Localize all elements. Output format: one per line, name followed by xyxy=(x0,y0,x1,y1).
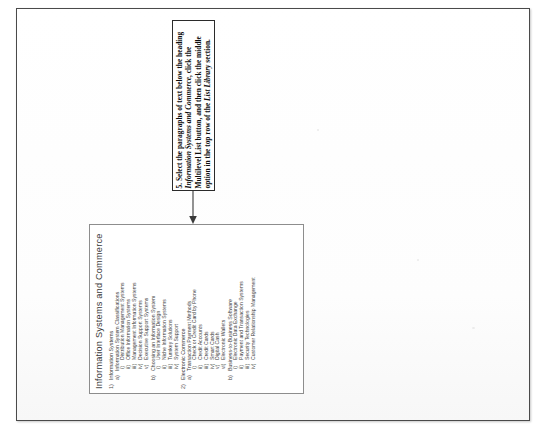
callout-emphasis-1: Information Systems and Commerce xyxy=(183,77,192,188)
scan-speck xyxy=(417,259,419,261)
outline-item-label: Electronic Wallets xyxy=(220,320,226,360)
outline-item-level-3: iv)System Support xyxy=(173,227,179,389)
outline-item-label: Information Systems xyxy=(107,331,113,380)
outline-item-level-2: b)Choosing an Information System xyxy=(149,227,155,389)
scan-speck xyxy=(317,129,319,131)
outline-item-label: Electronic Commerce xyxy=(179,328,185,380)
outline-item-marker: iv) xyxy=(173,360,179,369)
callout-line-3: Multilevel List button, and then click t… xyxy=(193,36,202,188)
outline-item-level-3: iv)Customer Relationship Management xyxy=(250,227,256,389)
callout-down-arrow-icon xyxy=(185,191,201,225)
callout-emphasis-2: List Library xyxy=(202,64,211,100)
document-heading: Information Systems and Commerce xyxy=(93,227,104,389)
document-content-frame: Information Systems and Commerce 1)Infor… xyxy=(89,224,304,394)
callout-step-number: 5. xyxy=(174,182,183,188)
outline-item-label: Executive Support Systems xyxy=(143,298,149,360)
outline-item-level-3: vi)Electronic Wallets xyxy=(220,227,226,389)
callout-line-5: section. xyxy=(202,39,211,63)
instruction-callout-box: 5. Select the paragraphs of text below t… xyxy=(172,20,215,191)
outline-body: Information Systems and Commerce 1)Infor… xyxy=(93,227,301,389)
document-page: 5. Select the paragraphs of text below t… xyxy=(16,8,530,421)
callout-line-4: option in the top row of the xyxy=(202,102,211,188)
outline-list: 1)Information Systemsa)Information Syste… xyxy=(107,227,256,389)
callout-text: 5. Select the paragraphs of text below t… xyxy=(174,23,212,188)
outline-item-marker: b) xyxy=(226,371,232,380)
outline-item-label: Customer Relationship Management xyxy=(250,277,256,360)
callout-line-2: , click the xyxy=(183,46,192,76)
outline-item-label: System Support xyxy=(173,324,179,360)
outline-item-level-1: 2)Electronic Commerce xyxy=(179,227,185,389)
outline-item-marker: a) xyxy=(113,371,119,380)
callout-line-1: Select the paragraphs of text below the … xyxy=(174,31,183,180)
outline-item-marker: v) xyxy=(143,360,149,369)
outline-item-marker: b) xyxy=(149,371,155,380)
rotated-text-plane: Information Systems and Commerce 1)Infor… xyxy=(89,224,304,394)
outline-item-marker: 1) xyxy=(107,380,113,389)
outline-item-marker: 2) xyxy=(179,380,185,389)
scan-speck xyxy=(472,327,475,329)
outline-item-level-1: 1)Information Systems xyxy=(107,227,113,389)
outline-item-level-3: v)Executive Support Systems xyxy=(143,227,149,389)
callout-rotated-plane: 5. Select the paragraphs of text below t… xyxy=(173,21,214,190)
outline-item-marker: iv) xyxy=(250,360,256,369)
outline-item-marker: vi) xyxy=(220,360,226,369)
outline-item-marker: a) xyxy=(185,371,191,380)
